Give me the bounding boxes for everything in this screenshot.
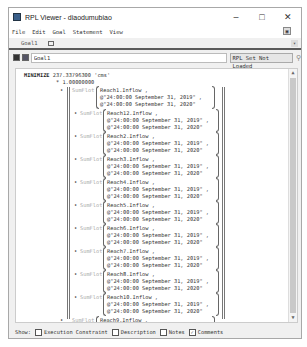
reach-slot[interactable]: Reach7.Inflow , <box>107 248 155 255</box>
block-bracket-right <box>216 178 219 201</box>
end-date[interactable]: @"24:00:00 September 31, 2020" <box>107 262 203 269</box>
end-date[interactable]: @"24:00:00 September 31, 2020" <box>107 239 203 246</box>
notes-checkbox[interactable] <box>160 329 167 336</box>
minimize-button[interactable]: – <box>223 12 249 22</box>
menu-statement[interactable]: Statement <box>73 29 103 35</box>
expression-editor[interactable]: MINIMIZE 237.33796300 'cms' * 1.00000000… <box>15 68 298 323</box>
end-date[interactable]: @"24:00:00 September 31, 2020" <box>107 193 203 200</box>
execution-constraint-checkbox[interactable] <box>35 329 42 336</box>
end-date[interactable]: @"24:00:00 September 31, 2020" <box>100 101 196 108</box>
vertical-scrollbar[interactable]: ▲ ▼ <box>288 69 297 322</box>
execution-constraint-label[interactable]: Execution Constraint <box>44 329 108 335</box>
reach-slot[interactable]: Reach4.Inflow , <box>107 179 155 186</box>
end-date[interactable]: @"24:00:00 September 31, 2020" <box>107 308 203 315</box>
comments-label[interactable]: Comments <box>198 329 224 335</box>
start-date[interactable]: @"24:00:00 September 31, 2019" , <box>107 140 209 147</box>
description-label[interactable]: Description <box>121 329 156 335</box>
rpl-set-status-button[interactable]: RPL Set Not Loaded <box>230 53 293 63</box>
block-bracket-left <box>103 224 106 247</box>
description-checkbox[interactable] <box>112 329 119 336</box>
sumflot-label[interactable]: SumFlot <box>80 156 102 163</box>
start-date[interactable]: @"24:00:00 September 31, 2019" , <box>107 186 209 193</box>
sumflot-label[interactable]: SumFlot <box>72 87 94 94</box>
sumflot-label[interactable]: SumFlot <box>80 248 102 255</box>
end-date[interactable]: @"24:00:00 September 31, 2020" <box>107 147 203 154</box>
sumflot-label[interactable]: SumFlot <box>80 271 102 278</box>
block-bracket-left <box>103 293 106 316</box>
menu-file[interactable]: File <box>12 29 25 35</box>
sumflot-label[interactable]: SumFlot <box>80 110 102 117</box>
restore-icon[interactable]: ▣ <box>283 27 291 35</box>
block-bracket-left <box>103 270 106 293</box>
block-bracket-left <box>103 132 106 155</box>
tab-goal1[interactable]: Goal1 <box>21 40 38 46</box>
scroll-up-icon[interactable]: ▲ <box>289 69 297 77</box>
window-title: RPL Viewer - diaodumubiao <box>25 14 223 21</box>
block-bracket-right <box>216 132 219 155</box>
plus-marker: • <box>60 317 63 323</box>
end-date[interactable]: @"24:00:00 September 31, 2020" <box>107 216 203 223</box>
plus-marker: • <box>74 202 77 209</box>
menu-view[interactable]: View <box>110 29 123 35</box>
menu-edit[interactable]: Edit <box>32 29 45 35</box>
plus-marker: • <box>74 156 77 163</box>
scroll-down-icon[interactable]: ▼ <box>289 314 297 322</box>
start-date[interactable]: @"24:00:00 September 31, 2019" , <box>107 301 209 308</box>
coefficient: 237.33796300 <box>53 72 91 78</box>
reach-slot[interactable]: Reach5.Inflow , <box>107 202 155 209</box>
plus-marker: • <box>74 110 77 117</box>
reach-slot[interactable]: Reach9.Inflow , <box>100 317 148 323</box>
start-date[interactable]: @"24:00:00 September 31, 2019" , <box>107 163 209 170</box>
sumflot-label[interactable]: SumFlot <box>80 202 102 209</box>
end-date[interactable]: @"24:00:00 September 31, 2020" <box>107 124 203 131</box>
reach-slot[interactable]: Reach2.Inflow , <box>107 133 155 140</box>
goal-toolbar: RPL Set Not Loaded ⚲ <box>9 50 301 65</box>
sumflot-label[interactable]: SumFlot <box>72 317 94 323</box>
tab-menu-icon[interactable]: ▾ <box>291 40 298 47</box>
close-button[interactable]: ✕ <box>275 12 301 22</box>
reach-slot[interactable]: Reach8.Inflow , <box>107 271 155 278</box>
pin-icon[interactable]: ⚲ <box>296 54 301 62</box>
start-date[interactable]: @"24:00:00 September 31, 2019" , <box>107 209 209 216</box>
reach-slot[interactable]: Reach12.Inflow , <box>107 110 158 117</box>
reach-slot[interactable]: Reach6.Inflow , <box>107 225 155 232</box>
plus-marker: • <box>74 179 77 186</box>
end-date[interactable]: @"24:00:00 September 31, 2020" <box>107 170 203 177</box>
block-bracket-right <box>216 247 219 270</box>
show-label: Show: <box>15 329 31 335</box>
app-icon <box>13 13 21 21</box>
maximize-button[interactable]: □ <box>249 12 275 22</box>
sumflot-label[interactable]: SumFlot <box>80 294 102 301</box>
notes-label[interactable]: Notes <box>169 329 185 335</box>
block-bracket-left <box>103 247 106 270</box>
block-bracket-right <box>216 224 219 247</box>
start-date[interactable]: @"24:00:00 September 31, 2019" , <box>100 94 202 101</box>
plus-marker: • <box>74 225 77 232</box>
end-date[interactable]: @"24:00:00 September 31, 2020" <box>107 285 203 292</box>
scroll-thumb[interactable] <box>290 78 296 313</box>
block-bracket-left <box>96 316 99 323</box>
plus-marker: • <box>74 248 77 255</box>
tab-close-icon[interactable] <box>48 41 54 46</box>
start-date[interactable]: @"24:00:00 September 31, 2019" , <box>107 255 209 262</box>
comments-checkbox[interactable]: ✓ <box>189 329 196 336</box>
reach-slot[interactable]: Reach10.Inflow , <box>107 294 158 301</box>
objective-line: MINIMIZE 237.33796300 'cms' <box>24 72 110 79</box>
block-bracket-left <box>103 155 106 178</box>
sumflot-label[interactable]: SumFlot <box>80 179 102 186</box>
rpl-viewer-window: RPL Viewer - diaodumubiao – □ ✕ File Edi… <box>8 7 302 339</box>
start-date[interactable]: @"24:00:00 September 31, 2019" , <box>107 232 209 239</box>
sumflot-label[interactable]: SumFlot <box>80 133 102 140</box>
tab-bar: Goal1 ▾ <box>9 38 301 50</box>
goal-settings-icon[interactable] <box>22 54 29 61</box>
block-bracket-right <box>212 316 215 323</box>
menu-goal[interactable]: Goal <box>53 29 66 35</box>
start-date[interactable]: @"24:00:00 September 31, 2019" , <box>107 117 209 124</box>
reach-slot[interactable]: Reach1.Inflow , <box>100 87 148 94</box>
reach-slot[interactable]: Reach3.Inflow , <box>107 156 155 163</box>
goal-name-input[interactable] <box>31 53 227 63</box>
sumflot-label[interactable]: SumFlot <box>80 225 102 232</box>
start-date[interactable]: @"24:00:00 September 31, 2019" , <box>107 278 209 285</box>
goal-icon[interactable] <box>13 54 20 61</box>
plus-marker: • <box>74 133 77 140</box>
